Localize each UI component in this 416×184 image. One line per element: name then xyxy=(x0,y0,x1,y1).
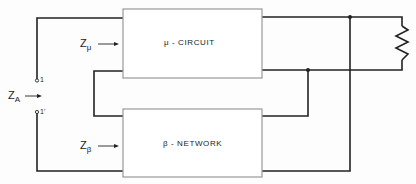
diagram-canvas: μ - CIRCUIT β - NETWORK Zμ Zβ ZA 1 1' xyxy=(0,0,416,184)
z-beta-label: Zβ xyxy=(80,139,91,154)
circuit-wires xyxy=(0,0,416,184)
z-mu-arrowhead-icon xyxy=(114,42,119,46)
junction-dot xyxy=(306,68,310,72)
wire-beta-input-b xyxy=(262,17,350,171)
z-beta-arrowhead-icon xyxy=(114,144,119,148)
z-mu-main: Z xyxy=(80,37,87,49)
z-a-main: Z xyxy=(8,89,15,101)
z-mu-label: Zμ xyxy=(80,37,91,52)
mu-circuit-label: μ - CIRCUIT xyxy=(164,38,215,47)
terminal-1-icon xyxy=(35,79,38,82)
terminal-1-label: 1 xyxy=(40,76,44,83)
z-a-arrowhead-icon xyxy=(37,94,42,98)
load-resistor-icon xyxy=(396,26,408,60)
z-mu-sub: μ xyxy=(87,43,92,52)
wire-beta-input-a xyxy=(262,70,308,116)
wire-mu-output-bottom xyxy=(262,60,402,70)
junction-dot xyxy=(348,15,352,19)
wire-mu-output-top xyxy=(262,17,402,26)
z-beta-sub: β xyxy=(87,145,92,154)
wire-mu-beta-inner xyxy=(94,71,123,116)
z-beta-main: Z xyxy=(80,139,87,151)
terminal-1prime-label: 1' xyxy=(40,108,45,115)
z-a-sub: A xyxy=(15,95,20,104)
beta-network-label: β - NETWORK xyxy=(163,139,222,148)
z-a-label: ZA xyxy=(8,89,20,104)
terminal-1prime-icon xyxy=(35,110,38,113)
